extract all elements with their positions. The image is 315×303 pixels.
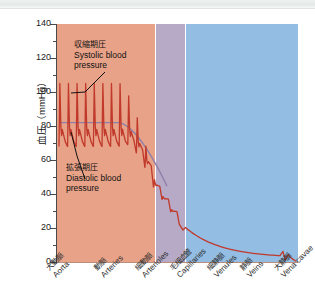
y-tick-label: 60: [11, 155, 51, 164]
y-tick-major: [50, 126, 57, 127]
y-tick-major: [50, 24, 57, 25]
blood-pressure-chart: 020406080100120140 血圧（mmHg） 大動脈Aorta動脈Ar…: [0, 8, 315, 303]
annotation-systolic-jp: 収縮期圧: [74, 40, 126, 50]
annotation-diastolic-en2: pressure: [66, 183, 99, 193]
y-tick-major: [50, 160, 57, 161]
y-tick-label: 140: [11, 19, 51, 28]
y-tick-minor: [53, 109, 57, 110]
y-tick-minor: [53, 211, 57, 212]
annotation-diastolic-en1: Diastolic blood: [66, 173, 121, 183]
y-axis-title: 血圧（mmHg）: [34, 66, 48, 156]
y-tick-minor: [53, 177, 57, 178]
y-tick-label: 20: [11, 223, 51, 232]
annotation-systolic: 収縮期圧 Systolic blood pressure: [74, 40, 126, 70]
annotation-systolic-en1: Systolic blood: [74, 50, 126, 60]
y-tick-minor: [53, 245, 57, 246]
y-tick-major: [50, 92, 57, 93]
y-tick-label: 120: [11, 53, 51, 62]
annotation-diastolic-jp: 拡張期圧: [66, 163, 121, 173]
y-tick-label: 40: [11, 189, 51, 198]
y-tick-major: [50, 58, 57, 59]
annotation-diastolic: 拡張期圧 Diastolic blood pressure: [66, 163, 121, 193]
y-tick-minor: [53, 41, 57, 42]
y-tick-major: [50, 228, 57, 229]
y-tick-minor: [53, 75, 57, 76]
y-tick-major: [50, 194, 57, 195]
y-tick-minor: [53, 143, 57, 144]
annotation-systolic-en2: pressure: [74, 60, 107, 70]
